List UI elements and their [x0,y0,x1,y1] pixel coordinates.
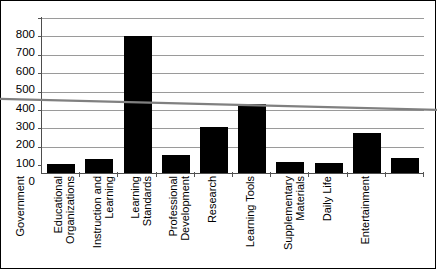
bar-series [42,17,424,173]
y-tick-label: 600 [16,66,35,78]
x-label-instruction-and-learning: Instruction and Learning [92,176,115,268]
bar-educational-organizations[interactable] [85,159,113,173]
x-label-professional-development: Professional Development [168,176,191,268]
x-label-government: Government [15,176,27,268]
y-tick-label: 800 [16,29,35,41]
bar-chart: 800 700 600 500 400 300 200 100 0 [0,0,437,270]
y-axis-tick-labels: 800 700 600 500 400 300 200 100 0 [0,17,41,177]
bar-entertainment[interactable] [391,158,419,173]
y-tick-label: 100 [16,158,35,170]
y-tick-label: 500 [16,84,35,96]
bar-slot [386,17,424,173]
bar-daily-life[interactable] [353,133,381,173]
x-axis-category-labels: Government Educational Organizations Ins… [42,176,425,268]
bar-slot [118,17,156,173]
y-tick-label: 400 [16,103,35,115]
x-label-daily-life: Daily Life [322,176,334,268]
plot-area [41,17,424,173]
y-tick-label: 0 [29,176,35,188]
bar-professional-development[interactable] [200,127,228,173]
x-label-research: Research [207,176,219,268]
bar-slot [195,17,233,173]
x-label-cell: Entertainment [387,176,425,268]
x-label-supplementary-materials: Supplementary Materials [283,176,306,268]
x-label-learning-tools: Learning Tools [245,176,257,268]
bar-slot [80,17,118,173]
bar-slot [348,17,386,173]
x-label-entertainment: Entertainment [360,176,372,268]
bar-slot [271,17,309,173]
bar-learning-standards[interactable] [162,155,190,173]
x-label-learning-standards: Learning Standards [130,176,153,268]
bar-research[interactable] [238,104,266,173]
bar-instruction-and-learning[interactable] [124,36,152,173]
y-tick-label: 300 [16,121,35,133]
x-label-educational-organizations: Educational Organizations [53,176,76,268]
bar-slot [233,17,271,173]
bar-slot [309,17,347,173]
y-tick-label: 700 [16,48,35,60]
y-tick-label: 200 [16,140,35,152]
bar-slot [157,17,195,173]
bar-slot [42,17,80,173]
